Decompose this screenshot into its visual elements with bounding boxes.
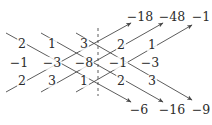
up-right-diagonal-arrows [6,23,192,92]
matrix-cell-r3c2: 3 [47,75,57,88]
matrix-cell-r1c4: 2 [116,39,126,52]
matrix-cell-r3c4: 2 [116,75,126,88]
matrix-cell-r2c3: −8 [74,57,94,70]
matrix-cell-r1c1: 2 [17,38,27,51]
up-product-label-1: −18 [127,11,153,24]
matrix-cell-r2c5: −3 [140,57,160,70]
up-product-label-2: −48 [159,11,185,24]
matrix-cell-r1c2: 1 [47,38,57,51]
matrix-cell-r2c1: −1 [9,57,29,70]
matrix-cell-r1c5: 1 [147,39,157,52]
matrix-cell-r1c3: 3 [79,38,89,51]
matrix-cell-r2c2: −3 [42,57,62,70]
up-product-label-3: −1 [192,11,210,24]
down-product-label-2: −16 [159,104,185,117]
matrix-cell-r3c5: 3 [147,75,157,88]
down-product-label-3: −9 [192,104,210,117]
matrix-cell-r3c1: 2 [17,75,27,88]
matrix-cell-r2c4: −1 [108,57,128,70]
sarrus-determinant-figure: 2 1 3 2 1 −1 −3 −8 −1 −3 2 3 1 2 3 −18 −… [0,0,212,125]
matrix-cell-r3c3: 1 [79,75,89,88]
down-right-diagonal-arrows [6,33,192,102]
down-product-label-1: −6 [130,104,148,117]
